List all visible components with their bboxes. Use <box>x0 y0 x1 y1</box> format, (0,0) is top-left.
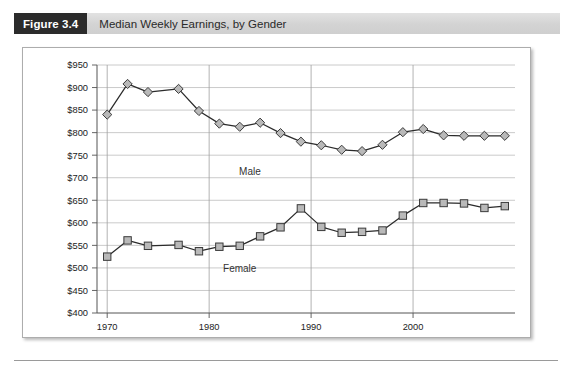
data-point-marker <box>398 128 407 137</box>
x-axis-tick-labels: 1970198019902000 <box>97 322 424 332</box>
y-tick-label: $500 <box>67 263 88 273</box>
series-label-male: Male <box>239 166 261 177</box>
x-tick-label: 1980 <box>199 322 220 332</box>
data-point-marker <box>337 145 346 154</box>
data-point-marker <box>256 233 263 240</box>
data-point-marker <box>296 137 305 146</box>
y-tick-label: $400 <box>67 308 88 318</box>
data-point-marker <box>379 227 386 234</box>
data-point-marker <box>195 248 202 255</box>
data-point-marker <box>297 205 304 212</box>
data-point-marker <box>256 118 265 127</box>
data-point-marker <box>318 223 325 230</box>
bottom-divider-rule <box>14 360 558 361</box>
y-tick-label: $700 <box>67 173 88 183</box>
data-point-marker <box>216 243 223 250</box>
data-point-marker <box>481 204 488 211</box>
data-point-marker <box>235 122 244 131</box>
data-point-marker <box>143 87 152 96</box>
data-point-marker <box>277 224 284 231</box>
series-label-female: Female <box>223 263 257 274</box>
data-point-marker <box>420 199 427 206</box>
series-female <box>104 199 509 260</box>
series-annotations: MaleFemale <box>223 166 261 274</box>
data-point-marker <box>276 128 285 137</box>
figure-number-tag: Figure 3.4 <box>14 13 87 34</box>
data-point-marker <box>439 131 448 140</box>
line-chart: $400$450$500$550$600$650$700$750$800$850… <box>23 48 530 337</box>
grid-lines <box>92 65 515 313</box>
data-point-marker <box>175 241 182 248</box>
x-tick-label: 1970 <box>97 322 118 332</box>
y-tick-label: $650 <box>67 196 88 206</box>
data-point-marker <box>358 228 365 235</box>
y-tick-label: $800 <box>67 128 88 138</box>
data-point-marker <box>399 212 406 219</box>
data-point-marker <box>144 242 151 249</box>
y-axis-tick-labels: $400$450$500$550$600$650$700$750$800$850… <box>67 60 88 318</box>
data-point-marker <box>104 253 111 260</box>
figure-caption: Median Weekly Earnings, by Gender <box>87 18 286 30</box>
x-tick-label: 2000 <box>403 322 424 332</box>
y-tick-label: $900 <box>67 83 88 93</box>
figure-header-bar: Figure 3.4 Median Weekly Earnings, by Ge… <box>14 13 560 34</box>
data-point-marker <box>357 147 366 156</box>
data-point-marker <box>215 119 224 128</box>
chart-panel: $400$450$500$550$600$650$700$750$800$850… <box>22 47 531 338</box>
y-tick-label: $750 <box>67 151 88 161</box>
y-tick-label: $950 <box>67 60 88 70</box>
y-tick-label: $450 <box>67 286 88 296</box>
data-point-marker <box>103 110 112 119</box>
data-point-marker <box>378 140 387 149</box>
y-tick-label: $600 <box>67 218 88 228</box>
data-point-marker <box>317 141 326 150</box>
x-axis-gridlines <box>107 65 413 318</box>
data-point-marker <box>460 200 467 207</box>
series-male <box>103 79 510 155</box>
y-tick-label: $550 <box>67 241 88 251</box>
y-tick-label: $850 <box>67 105 88 115</box>
axis-lines <box>97 65 515 313</box>
data-point-marker <box>501 202 508 209</box>
data-point-marker <box>440 199 447 206</box>
data-point-marker <box>338 229 345 236</box>
data-point-marker <box>236 242 243 249</box>
data-point-marker <box>124 237 131 244</box>
x-tick-label: 1990 <box>301 322 322 332</box>
